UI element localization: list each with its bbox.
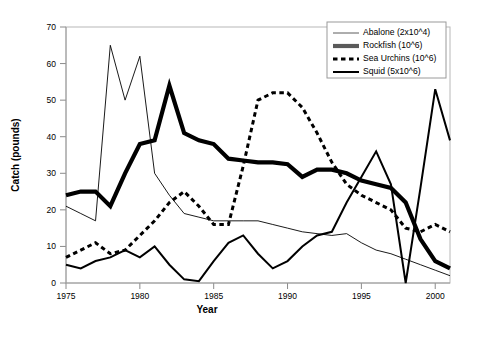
- x-tick-label: 1990: [278, 291, 297, 301]
- y-tick-label: 20: [47, 205, 57, 215]
- y-tick-label: 0: [51, 278, 56, 288]
- chart-legend: Abalone (2x10^4)Rockfish (10^6)Sea Urchi…: [327, 22, 446, 78]
- x-tick-label: 1995: [352, 291, 371, 301]
- x-tick-label: 1975: [57, 291, 76, 301]
- x-tick-label: 1985: [204, 291, 223, 301]
- x-tick-label: 2000: [426, 291, 445, 301]
- y-tick-label: 40: [47, 132, 57, 142]
- y-axis-title: Catch (pounds): [10, 118, 21, 191]
- y-tick-label: 50: [47, 95, 57, 105]
- catch-by-year-line-chart: 010203040506070 197519801985199019952000…: [0, 0, 477, 338]
- legend-label: Sea Urchins (10^6): [363, 53, 436, 63]
- y-tick-label: 30: [47, 168, 57, 178]
- legend-label: Squid (5x10^6): [363, 66, 421, 76]
- y-tick-label: 10: [47, 241, 57, 251]
- x-axis-title: Year: [196, 304, 217, 315]
- chart-canvas: 010203040506070 197519801985199019952000…: [0, 0, 477, 338]
- y-tick-label: 70: [47, 22, 57, 32]
- legend-label: Rockfish (10^6): [363, 40, 423, 50]
- legend-label: Abalone (2x10^4): [363, 27, 430, 37]
- y-tick-label: 60: [47, 59, 57, 69]
- x-tick-label: 1980: [130, 291, 149, 301]
